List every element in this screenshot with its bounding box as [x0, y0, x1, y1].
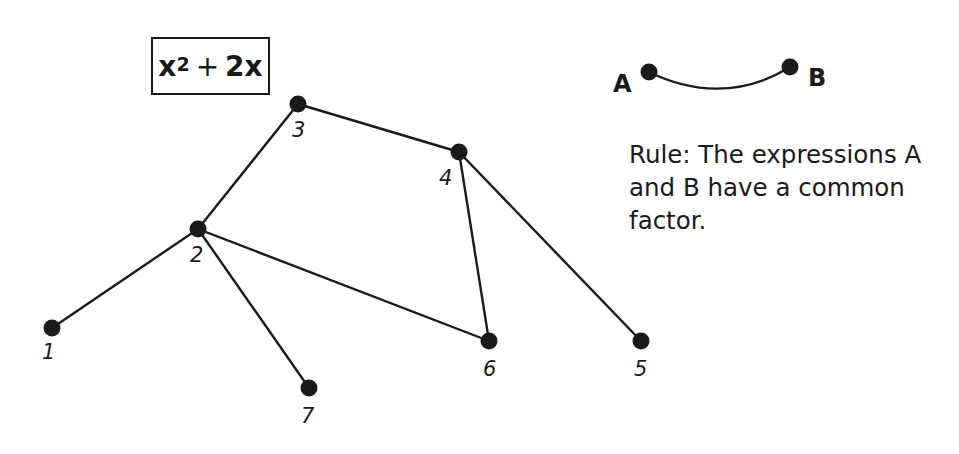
- edge-3-4: [298, 104, 459, 152]
- node-label-4: 4: [439, 166, 452, 190]
- expression-operator: +: [196, 50, 219, 83]
- node-6: [481, 333, 498, 350]
- graph-nodes: [44, 96, 650, 397]
- expression-term: 2x: [225, 50, 263, 83]
- node-2: [190, 221, 207, 238]
- node-label-1: 1: [42, 340, 55, 364]
- edge-1-2: [52, 229, 198, 328]
- node-7: [301, 380, 318, 397]
- node-label-3: 3: [292, 118, 305, 142]
- expression-box: x2 + 2x: [151, 37, 270, 95]
- edge-4-5: [459, 152, 641, 341]
- node-4: [451, 144, 468, 161]
- expression-base: x: [158, 50, 176, 83]
- graph-edges: [52, 104, 641, 388]
- node-5: [633, 333, 650, 350]
- legend-label-a: A: [613, 70, 632, 98]
- edge-4-6: [459, 152, 489, 341]
- edge-2-3: [198, 104, 298, 229]
- node-label-2: 2: [190, 243, 203, 267]
- node-label-7: 7: [301, 404, 314, 428]
- edge-2-7: [198, 229, 309, 388]
- node-1: [44, 320, 61, 337]
- rule-text: Rule: The expressions A and B have a com…: [629, 138, 939, 237]
- node-label-5: 5: [634, 357, 647, 381]
- node-label-6: 6: [483, 357, 496, 381]
- legend-node-a: [641, 64, 658, 81]
- legend-edge-a-b: [649, 67, 790, 89]
- node-3: [290, 96, 307, 113]
- edge-2-6: [198, 229, 489, 341]
- legend-label-b: B: [808, 64, 826, 92]
- legend-node-b: [782, 59, 799, 76]
- expression-exponent: 2: [176, 53, 189, 75]
